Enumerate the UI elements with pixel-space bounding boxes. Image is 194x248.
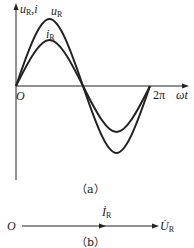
voltage-phasor-label: U̇R (160, 220, 174, 234)
curve-iR-label: iR (46, 28, 55, 42)
current-phasor-label: İR (102, 206, 111, 220)
voltage-phasor-arrow-icon (152, 224, 159, 229)
y-axis-label: uR,i (20, 3, 38, 17)
y-axis-arrow-icon (14, 3, 19, 10)
x-axis-label: ωt (176, 89, 188, 101)
waveform-diagram (0, 0, 194, 248)
current-phasor-arrow-icon (99, 224, 106, 229)
tick-2pi: 2π (153, 89, 165, 101)
phasor-origin-label: O (7, 220, 16, 232)
caption-b: （b） (76, 233, 105, 248)
curve-uR-label: uR (51, 5, 62, 19)
origin-label: O (16, 90, 25, 102)
caption-a: （a） (76, 180, 105, 196)
